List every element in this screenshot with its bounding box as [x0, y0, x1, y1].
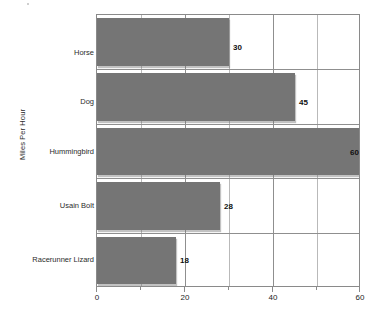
value-label-dog: 45 [299, 98, 308, 107]
bar-band-racerunner-lizard [97, 234, 359, 287]
x-tick-20 [184, 287, 185, 292]
bar-usain-bolt[interactable] [97, 182, 220, 230]
x-tick-30 [228, 287, 229, 290]
image-artifact-speck [27, 3, 29, 5]
bar-racerunner-lizard[interactable] [97, 237, 176, 284]
x-axis-label-40: 40 [269, 293, 278, 302]
value-label-hummingbird: 60 [350, 148, 359, 157]
x-tick-60 [359, 287, 360, 292]
x-tick-10 [140, 287, 141, 290]
bar-band-horse [97, 15, 359, 69]
x-axis-label-0: 0 [95, 293, 99, 302]
category-label-hummingbird: Hummingbird [0, 147, 94, 156]
bar-horse[interactable] [97, 18, 229, 66]
category-label-dog: Dog [0, 97, 94, 106]
x-axis-label-60: 60 [356, 293, 365, 302]
category-label-racerunner-lizard: Racerunner Lizard [0, 255, 94, 264]
value-label-racerunner-lizard: 18 [180, 256, 189, 265]
plot-area: 30 45 60 28 18 [96, 14, 360, 287]
x-axis-label-20: 20 [181, 293, 190, 302]
value-label-horse: 30 [233, 43, 242, 52]
bar-band-dog [97, 70, 359, 124]
bar-dog[interactable] [97, 73, 295, 121]
category-label-horse: Horse [0, 48, 94, 57]
category-label-usain-bolt: Usain Bolt [0, 201, 94, 210]
value-label-usain-bolt: 28 [224, 202, 233, 211]
x-tick-50 [316, 287, 317, 290]
bar-chart: Miles Per Hour Horse Dog Hummingbird Usa… [0, 0, 376, 314]
x-tick-40 [272, 287, 273, 292]
bar-band-hummingbird [97, 125, 359, 178]
bar-hummingbird[interactable] [97, 128, 360, 175]
x-tick-0 [96, 287, 97, 292]
